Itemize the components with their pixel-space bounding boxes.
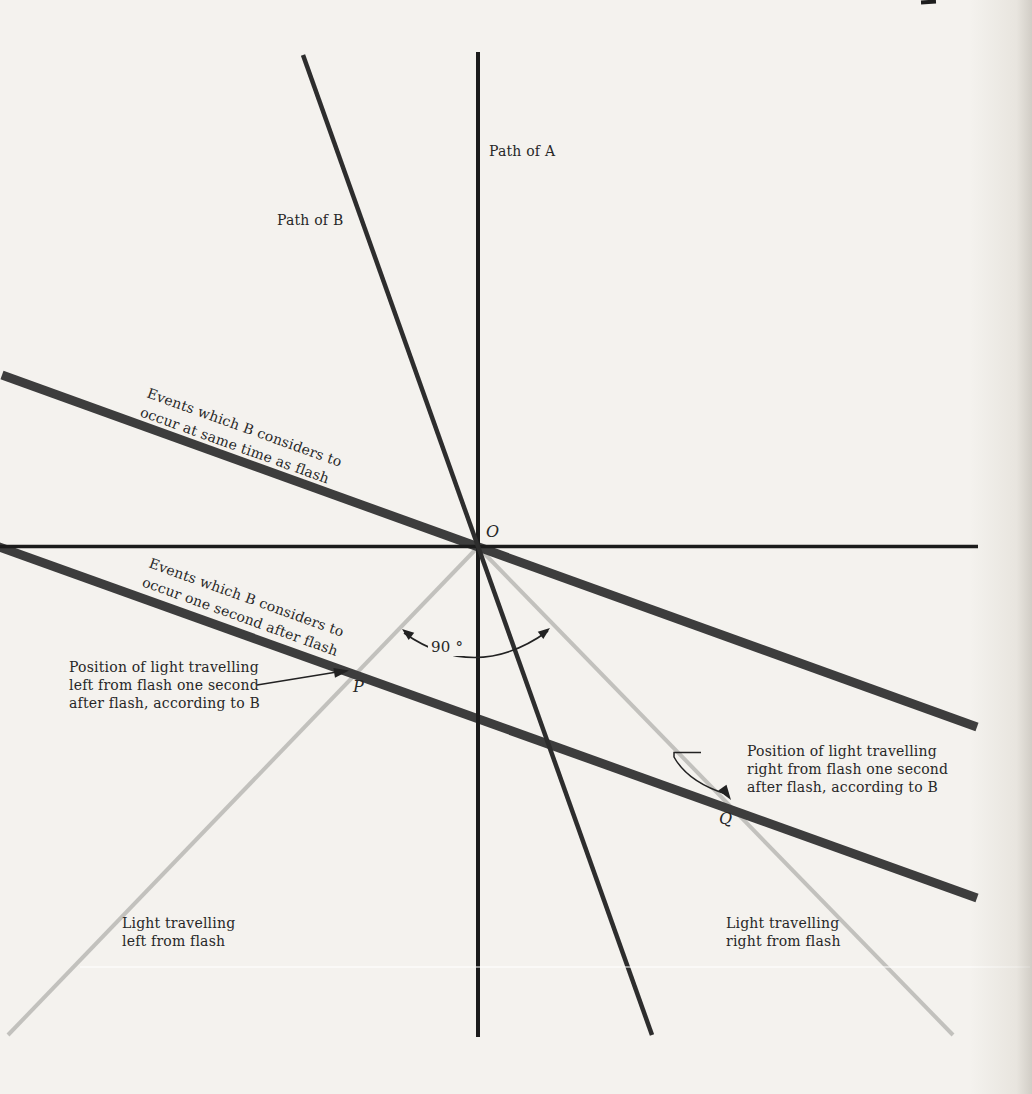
position-light-left-caption: Position of light travelling left from f… <box>69 658 260 712</box>
simultaneity-one-second-line <box>0 547 977 899</box>
q-point-label: Q <box>719 811 732 827</box>
origin-point-label: O <box>486 524 499 540</box>
light-right-caption: Light travelling right from flash <box>726 914 841 950</box>
p-point-label: P <box>353 679 364 695</box>
position-light-right-caption: Position of light travelling right from … <box>747 742 948 796</box>
leader-line-to-p <box>257 672 337 685</box>
path-b-label: Path of B <box>277 211 343 229</box>
page-edge-ink-speck <box>921 0 936 4</box>
light-left-caption: Light travelling left from flash <box>122 914 235 950</box>
path-a-label: Path of A <box>489 142 555 160</box>
spacetime-diagram-page: Path of A Path of B Events which B consi… <box>0 0 1032 1094</box>
angle-90-label: 90 ° <box>428 639 466 656</box>
